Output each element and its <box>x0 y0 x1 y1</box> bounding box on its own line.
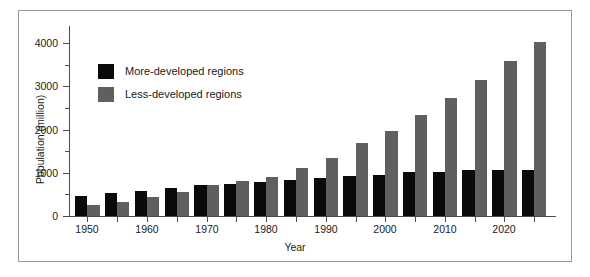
x-tick <box>87 216 88 222</box>
bar-less-developed <box>475 80 487 216</box>
x-tick-label: 1960 <box>127 224 167 235</box>
x-tick-label: 1950 <box>67 224 107 235</box>
x-tick <box>356 216 357 222</box>
bar-less-developed <box>177 192 189 216</box>
x-tick <box>445 216 446 222</box>
bar-less-developed <box>445 98 457 216</box>
bar-group <box>284 26 308 216</box>
bar-group <box>105 26 129 216</box>
bar-group <box>403 26 427 216</box>
x-tick-label: 1990 <box>306 224 346 235</box>
x-tick <box>385 216 386 222</box>
legend-label-less-developed: Less-developed regions <box>125 89 242 100</box>
legend-label-more-developed: More-developed regions <box>125 66 244 77</box>
x-axis-line <box>69 216 556 217</box>
bar-more-developed <box>75 196 87 216</box>
bar-less-developed <box>236 181 248 216</box>
bar-more-developed <box>403 172 415 216</box>
x-axis-title: Year <box>0 241 590 253</box>
bar-more-developed <box>462 170 474 216</box>
bar-less-developed <box>266 177 278 216</box>
bar-less-developed <box>385 131 397 216</box>
bar-group <box>224 26 248 216</box>
bar-less-developed <box>207 185 219 216</box>
bar-more-developed <box>284 180 296 216</box>
x-tick <box>534 216 535 222</box>
chart-figure: 01000200030004000 1950196019701980199020… <box>0 0 590 277</box>
bar-more-developed <box>522 170 534 216</box>
x-tick <box>504 216 505 222</box>
bar-less-developed <box>296 168 308 216</box>
bar-more-developed <box>373 175 385 216</box>
legend-swatch-icon-less-developed <box>98 87 114 102</box>
bar-less-developed <box>415 115 427 216</box>
bar-group <box>194 26 218 216</box>
bar-less-developed <box>356 143 368 216</box>
y-tick-label: 0 <box>14 211 58 222</box>
legend-item-more-developed: More-developed regions <box>98 62 244 81</box>
x-tick <box>117 216 118 222</box>
bar-less-developed <box>117 202 129 216</box>
bar-more-developed <box>492 170 504 216</box>
bar-less-developed <box>326 158 338 216</box>
bar-group <box>343 26 367 216</box>
bar-group <box>462 26 486 216</box>
bar-group <box>433 26 457 216</box>
bar-less-developed <box>534 42 546 216</box>
x-tick <box>177 216 178 222</box>
x-tick-label: 1970 <box>187 224 227 235</box>
bar-more-developed <box>433 172 445 216</box>
legend-swatch-icon-more-developed <box>98 64 114 79</box>
y-axis-title: Population (million) <box>34 95 46 184</box>
bar-group <box>492 26 516 216</box>
bar-more-developed <box>135 191 147 216</box>
bar-more-developed <box>314 178 326 216</box>
x-tick-label: 2000 <box>365 224 405 235</box>
bar-group <box>135 26 159 216</box>
bar-less-developed <box>87 205 99 216</box>
x-tick <box>415 216 416 222</box>
x-tick <box>147 216 148 222</box>
bar-more-developed <box>343 176 355 216</box>
bar-series-container <box>69 26 556 216</box>
x-tick <box>207 216 208 222</box>
x-tick-label: 2020 <box>484 224 524 235</box>
x-tick-label: 2010 <box>425 224 465 235</box>
bar-group <box>165 26 189 216</box>
y-tick-major <box>63 216 69 217</box>
y-tick-label: 4000 <box>14 38 58 49</box>
bar-less-developed <box>504 61 516 216</box>
x-tick <box>266 216 267 222</box>
bar-group <box>373 26 397 216</box>
bar-more-developed <box>224 184 236 216</box>
bar-group <box>522 26 546 216</box>
x-tick <box>236 216 237 222</box>
chart-legend: More-developed regions Less-developed re… <box>98 62 244 108</box>
x-tick <box>296 216 297 222</box>
bar-more-developed <box>254 182 266 216</box>
bar-group <box>254 26 278 216</box>
x-tick-label: 1980 <box>246 224 286 235</box>
bar-more-developed <box>194 185 206 216</box>
bar-group <box>75 26 99 216</box>
legend-item-less-developed: Less-developed regions <box>98 85 244 104</box>
bar-more-developed <box>165 188 177 217</box>
bar-less-developed <box>147 197 159 216</box>
x-tick <box>475 216 476 222</box>
bar-more-developed <box>105 193 117 216</box>
x-tick <box>326 216 327 222</box>
y-tick-label: 3000 <box>14 81 58 92</box>
bar-group <box>314 26 338 216</box>
